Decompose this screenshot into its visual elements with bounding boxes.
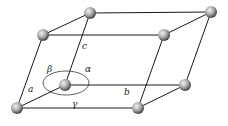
label-b: b — [124, 87, 130, 97]
label-gamma: γ — [72, 99, 78, 109]
atom — [179, 79, 191, 91]
edge-top-left — [43, 13, 90, 35]
atom — [158, 29, 170, 41]
atom — [132, 102, 144, 114]
edge-top-back — [90, 12, 211, 13]
atom — [59, 79, 71, 91]
atom — [11, 102, 23, 114]
label-alpha: α — [85, 64, 91, 74]
atom — [84, 7, 96, 19]
cell-edges — [17, 12, 211, 108]
atom — [37, 29, 49, 41]
label-c: c — [82, 41, 87, 51]
unit-cell-diagram: c β α a γ b — [0, 0, 228, 126]
label-beta: β — [46, 64, 52, 74]
atom — [205, 6, 217, 18]
label-a: a — [28, 84, 33, 94]
atoms — [11, 6, 217, 114]
